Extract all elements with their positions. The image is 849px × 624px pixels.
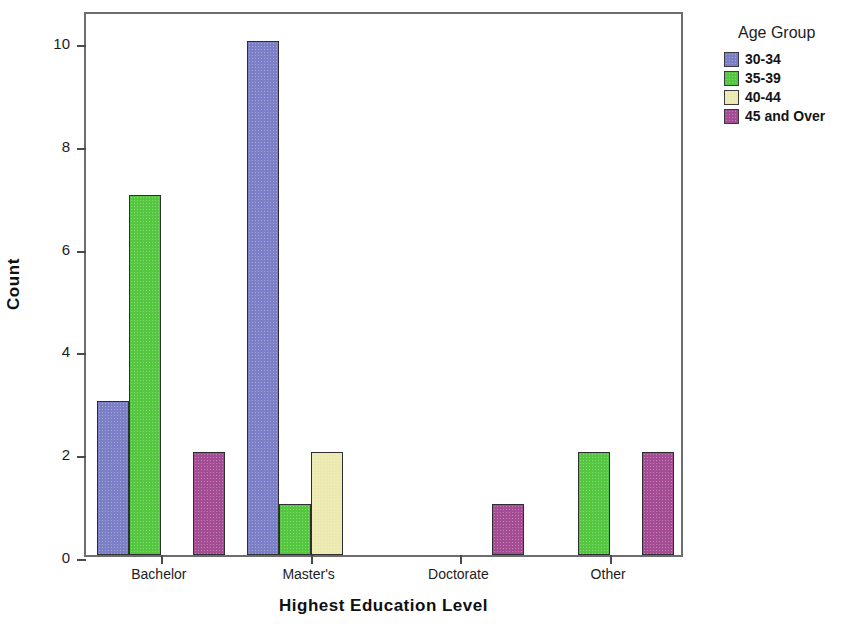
y-axis-title: Count xyxy=(4,258,24,310)
legend-item[interactable]: 30-34 xyxy=(724,51,846,67)
bar xyxy=(578,452,610,555)
x-axis-tick-label: Doctorate xyxy=(428,566,489,582)
bar xyxy=(97,401,129,555)
x-axis-tick-label: Bachelor xyxy=(131,566,186,582)
y-axis-tick xyxy=(77,559,86,561)
legend-item-label: 30-34 xyxy=(745,51,781,67)
y-axis-tick xyxy=(77,251,86,253)
y-axis-tick-label: 10 xyxy=(53,34,70,51)
bar xyxy=(642,452,674,555)
legend-item[interactable]: 35-39 xyxy=(724,70,846,86)
legend-color-swatch xyxy=(724,71,739,86)
x-axis-tick xyxy=(311,555,313,564)
legend-color-swatch xyxy=(724,109,739,124)
y-axis-tick xyxy=(77,353,86,355)
legend-title: Age Group xyxy=(738,24,846,42)
legend-item-label: 45 and Over xyxy=(745,108,825,124)
legend-entries: 30-3435-3940-4445 and Over xyxy=(724,51,846,124)
bar xyxy=(311,452,343,555)
y-axis-tick xyxy=(77,148,86,150)
legend-item[interactable]: 45 and Over xyxy=(724,108,846,124)
chart-screenshot: Count Highest Education Level Age Group … xyxy=(0,0,849,624)
bar xyxy=(193,452,225,555)
legend: Age Group 30-3435-3940-4445 and Over xyxy=(724,24,846,127)
x-axis-tick-label: Other xyxy=(591,566,626,582)
x-axis-tick-label: Master's xyxy=(282,566,334,582)
x-axis-title: Highest Education Level xyxy=(84,596,683,616)
legend-color-swatch xyxy=(724,90,739,105)
x-axis-tick xyxy=(460,555,462,564)
y-axis-tick-label: 6 xyxy=(62,240,70,257)
bar xyxy=(279,504,311,555)
plot-area xyxy=(86,14,681,555)
bar xyxy=(247,41,279,555)
y-axis-tick-label: 0 xyxy=(62,549,70,566)
legend-color-swatch xyxy=(724,52,739,67)
x-axis-tick xyxy=(610,555,612,564)
y-axis-tick xyxy=(77,456,86,458)
legend-item-label: 35-39 xyxy=(745,70,781,86)
bar xyxy=(129,195,161,555)
y-axis-tick-label: 8 xyxy=(62,137,70,154)
legend-item[interactable]: 40-44 xyxy=(724,89,846,105)
y-axis-tick xyxy=(77,45,86,47)
y-axis-tick-label: 2 xyxy=(62,446,70,463)
y-axis-tick-label: 4 xyxy=(62,343,70,360)
bar xyxy=(492,504,524,555)
x-axis-tick xyxy=(161,555,163,564)
plot-frame xyxy=(84,12,683,557)
legend-item-label: 40-44 xyxy=(745,89,781,105)
